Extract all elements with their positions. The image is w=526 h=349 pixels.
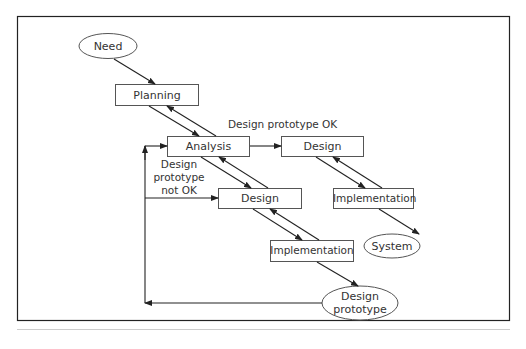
design-prototype-label-1: Design [322,290,398,303]
arrow-need-planning [114,59,155,84]
implementation-proto-label: Implementation [270,244,354,257]
diagram-frame [18,17,510,321]
analysis-label: Analysis [167,140,250,153]
design-proto-label: Design [218,192,302,205]
arrow-implementation-prototype [317,262,358,286]
need-label: Need [79,40,137,53]
planning-label: Planning [115,89,199,102]
edge-label-not-ok-1: Design [148,158,210,170]
edge-label-not-ok-3: not OK [148,184,210,196]
design-final-label: Design [281,140,364,153]
system-label: System [364,240,420,253]
design-prototype-label-2: prototype [322,303,398,316]
implementation-final-label: Implementation [333,192,414,205]
edge-label-not-ok-2: prototype [148,171,210,183]
arrow-implementation-system [379,209,419,234]
edge-label-prototype-ok: Design prototype OK [228,118,337,130]
